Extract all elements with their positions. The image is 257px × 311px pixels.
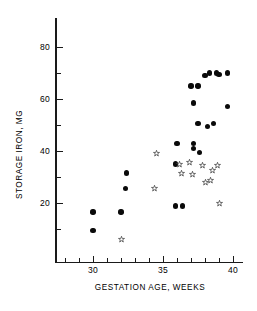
data-point-circle	[174, 141, 179, 146]
data-point-circle	[118, 209, 123, 214]
x-tick-major	[233, 256, 234, 262]
data-point-circle	[124, 170, 129, 175]
data-point-circle	[216, 72, 221, 77]
data-point-star	[151, 185, 158, 192]
data-point-star	[199, 162, 206, 169]
data-point-star	[186, 159, 193, 166]
scatter-plot-figure: 20406080 303540 GESTATION AGE, WEEKS STO…	[0, 0, 257, 311]
y-tick-minor	[57, 177, 61, 178]
y-tick-minor	[57, 125, 61, 126]
data-point-star	[153, 150, 160, 157]
data-point-circle	[195, 121, 200, 126]
data-point-star	[189, 171, 196, 178]
data-point-star	[214, 162, 221, 169]
data-point-star	[176, 161, 183, 168]
x-axis-title: GESTATION AGE, WEEKS	[55, 283, 245, 292]
x-tick-major	[163, 256, 164, 262]
data-point-circle	[191, 100, 196, 105]
x-tick-minor	[205, 258, 206, 262]
data-point-star	[216, 200, 223, 207]
y-tick-major	[57, 47, 63, 48]
data-point-circle	[173, 203, 178, 208]
x-axis-line	[55, 262, 243, 264]
x-tick-minor	[121, 258, 122, 262]
x-tick-label: 35	[148, 266, 178, 275]
x-tick-minor	[219, 258, 220, 262]
x-tick-minor	[107, 258, 108, 262]
y-axis-line	[55, 18, 57, 263]
data-point-circle	[90, 228, 95, 233]
y-tick-minor	[57, 73, 61, 74]
x-tick-minor	[135, 258, 136, 262]
data-point-circle	[225, 70, 230, 75]
x-tick-minor	[191, 258, 192, 262]
data-point-circle	[211, 121, 216, 126]
y-axis-title: STORAGE IRON, MG	[15, 80, 24, 230]
data-point-circle	[225, 104, 230, 109]
data-point-circle	[207, 70, 212, 75]
data-point-circle	[205, 124, 210, 129]
data-point-circle	[123, 186, 128, 191]
data-point-circle	[180, 203, 185, 208]
data-point-circle	[197, 150, 202, 155]
y-tick-major	[57, 203, 63, 204]
x-tick-label: 30	[78, 266, 108, 275]
y-tick-major	[57, 99, 63, 100]
y-tick-major	[57, 151, 63, 152]
x-tick-label: 40	[218, 266, 248, 275]
y-tick-minor	[57, 229, 61, 230]
data-point-circle	[90, 209, 95, 214]
y-tick-label: 80	[16, 43, 50, 52]
data-point-star	[118, 236, 125, 243]
data-point-circle	[191, 146, 196, 151]
data-point-circle	[195, 83, 200, 88]
x-tick-minor	[149, 258, 150, 262]
data-point-circle	[188, 83, 193, 88]
x-tick-minor	[65, 258, 66, 262]
x-tick-minor	[177, 258, 178, 262]
x-tick-major	[93, 256, 94, 262]
x-tick-minor	[79, 258, 80, 262]
data-point-star	[207, 177, 214, 184]
data-point-star	[178, 170, 185, 177]
